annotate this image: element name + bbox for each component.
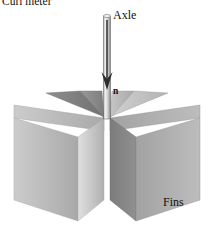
label-fins: Fins: [163, 196, 184, 208]
label-axle: Axle: [113, 9, 136, 21]
label-curl-meter: Curl meter: [2, 0, 52, 8]
label-normal-vector: n: [113, 87, 118, 97]
axle-top-cap: [104, 14, 111, 17]
curl-meter-figure: Curl meter Axle n Fins: [0, 0, 214, 231]
